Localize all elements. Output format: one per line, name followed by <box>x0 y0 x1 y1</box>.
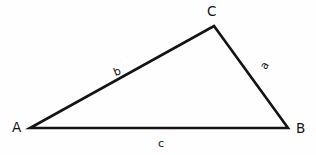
triangle-svg <box>0 0 316 155</box>
triangle-outline <box>30 26 288 128</box>
triangle-figure: A B C a b c <box>0 0 316 155</box>
vertex-label-b: B <box>296 122 305 136</box>
side-label-c: c <box>158 138 164 149</box>
vertex-label-c: C <box>207 5 217 19</box>
vertex-label-a: A <box>12 121 21 135</box>
